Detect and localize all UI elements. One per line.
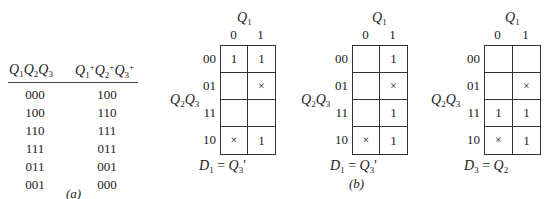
kmap-cell: [248, 100, 275, 127]
kmap-cell: [221, 73, 248, 100]
table-cell: 011: [92, 140, 122, 158]
column-variable-label: Q1: [237, 10, 252, 27]
column-label: 0: [484, 27, 511, 43]
kmap-grid: 1 1 × × 1: [220, 45, 276, 155]
table-cell: 100: [20, 104, 50, 122]
table-cell: 001: [20, 176, 50, 194]
table-cell: 110: [92, 104, 122, 122]
column-label: 0: [352, 27, 379, 43]
next-state-column: 100 110 111 011 001 000: [92, 86, 122, 194]
caption-a: (a): [66, 188, 81, 199]
kmap-cell: 1: [513, 100, 540, 127]
kmap-cell: 1: [248, 127, 275, 154]
kmap-cell: [485, 46, 513, 73]
column-label: 0: [220, 27, 247, 43]
table-cell: 110: [20, 122, 50, 140]
row-label: 10: [326, 132, 348, 148]
column-label: 1: [379, 27, 406, 43]
table-cell: 011: [20, 158, 50, 176]
kmap-cell: [221, 100, 248, 127]
kmap-cell: [485, 73, 513, 100]
row-label: 11: [194, 105, 216, 121]
kmap-cell: ×: [485, 127, 513, 154]
present-state-column: 000 100 110 111 011 001: [20, 86, 50, 194]
column-label: 1: [512, 27, 539, 43]
kmap-equation: D3 = Q2: [464, 158, 508, 175]
column-variable-label: Q1: [505, 10, 520, 27]
column-variable-label: Q1: [372, 10, 387, 27]
kmap-grid: × 1 1 × 1: [484, 45, 541, 155]
kmap-cell: ×: [513, 73, 540, 100]
row-label: 00: [458, 51, 480, 67]
row-label: 11: [326, 105, 348, 121]
table-cell: 000: [92, 176, 122, 194]
table-cell: 100: [92, 86, 122, 104]
table-cell: 000: [20, 86, 50, 104]
table-cell: 111: [20, 140, 50, 158]
kmap-cell: 1: [380, 46, 407, 73]
column-label: 1: [247, 27, 274, 43]
kmap-cell: 1: [380, 127, 407, 154]
row-label: 11: [458, 105, 480, 121]
kmap-grid: 1 × 1 × 1: [352, 45, 408, 155]
next-state-header: Q1+Q2+Q3+: [75, 62, 134, 80]
kmap-equation: D1 = Q3': [199, 158, 246, 175]
row-variable-label: Q2Q3: [431, 92, 460, 109]
kmap-cell: [353, 46, 380, 73]
row-label: 01: [194, 78, 216, 94]
kmap-cell: 1: [221, 46, 248, 73]
kmap-cell: 1: [248, 46, 275, 73]
row-label: 10: [458, 132, 480, 148]
kmap-cell: 1: [380, 100, 407, 127]
row-label: 00: [326, 51, 348, 67]
kmap-equation: D1 = Q3': [330, 158, 377, 175]
row-label: 00: [194, 51, 216, 67]
kmap-cell: ×: [248, 73, 275, 100]
kmap-cell: [353, 73, 380, 100]
table-cell: 001: [92, 158, 122, 176]
kmap-cell: [353, 100, 380, 127]
caption-b: (b): [349, 176, 364, 192]
kmap-cell: ×: [353, 127, 380, 154]
present-state-header: Q1Q2Q3: [9, 62, 53, 79]
table-cell: 111: [92, 122, 122, 140]
kmap-cell: 1: [485, 100, 513, 127]
row-label: 01: [326, 78, 348, 94]
kmap-cell: 1: [513, 127, 540, 154]
kmap-cell: [513, 46, 540, 73]
header-divider: [8, 82, 138, 83]
kmap-cell: ×: [221, 127, 248, 154]
row-label: 01: [458, 78, 480, 94]
kmap-cell: ×: [380, 73, 407, 100]
row-label: 10: [194, 132, 216, 148]
